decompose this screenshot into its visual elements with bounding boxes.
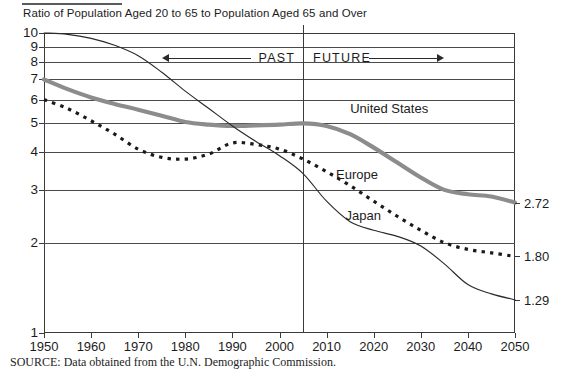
series-label-united-states: United States	[350, 102, 428, 115]
x-tick-label: 1950	[30, 340, 59, 353]
x-tick-label: 1990	[218, 340, 247, 353]
end-value-tick	[515, 256, 520, 257]
end-value-japan: 1.29	[524, 293, 549, 306]
x-tick-label: 2040	[453, 340, 482, 353]
y-tick-label: 8	[30, 55, 38, 69]
title-rule	[22, 3, 122, 5]
x-tick-mark	[44, 333, 45, 338]
x-tick-label: 1970	[124, 340, 153, 353]
x-tick-mark	[280, 333, 281, 338]
x-tick-label: 2050	[501, 340, 530, 353]
series-label-japan: Japan	[345, 209, 380, 222]
y-tick-label: 3	[30, 183, 38, 197]
series-line-japan	[44, 33, 515, 300]
plot-area: 10987654321 1950196019701980199020002010…	[44, 33, 515, 333]
end-value-united-states: 2.72	[524, 196, 549, 209]
end-value-tick	[515, 300, 520, 301]
x-tick-mark	[468, 333, 469, 338]
y-tick-label: 10	[23, 26, 38, 40]
series-line-united-states	[44, 79, 515, 202]
x-tick-mark	[421, 333, 422, 338]
y-tick-label: 6	[30, 93, 38, 107]
y-tick-label: 7	[30, 73, 38, 87]
population-ratio-chart-figure: Ratio of Population Aged 20 to 65 to Pop…	[0, 0, 561, 374]
x-tick-mark	[374, 333, 375, 338]
x-tick-mark	[327, 333, 328, 338]
x-tick-label: 2000	[265, 340, 294, 353]
chart-title: Ratio of Population Aged 20 to 65 to Pop…	[23, 7, 367, 19]
x-tick-label: 1960	[77, 340, 106, 353]
y-tick-label: 1	[30, 326, 38, 340]
x-tick-mark	[185, 333, 186, 338]
series-label-europe: Europe	[336, 168, 378, 181]
y-tick-label: 9	[30, 40, 38, 54]
x-tick-mark	[138, 333, 139, 338]
x-tick-label: 2010	[312, 340, 341, 353]
end-value-tick	[515, 203, 520, 204]
series-lines	[44, 33, 515, 333]
x-tick-mark	[515, 333, 516, 338]
y-tick-label: 2	[30, 236, 38, 250]
x-tick-label: 1980	[171, 340, 200, 353]
x-tick-mark	[91, 333, 92, 338]
y-tick-label: 4	[30, 146, 38, 160]
x-tick-mark	[232, 333, 233, 338]
y-tick-label: 5	[30, 117, 38, 131]
x-tick-label: 2030	[406, 340, 435, 353]
end-value-europe: 1.80	[524, 250, 549, 263]
x-tick-label: 2020	[359, 340, 388, 353]
source-note: SOURCE: Data obtained from the U.N. Demo…	[10, 355, 336, 370]
